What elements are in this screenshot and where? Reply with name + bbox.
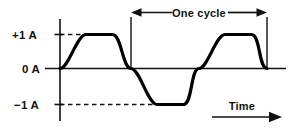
- label-zero: 0 A: [22, 63, 40, 75]
- label-negative-peak: −1 A: [14, 99, 39, 111]
- label-time: Time: [229, 100, 255, 112]
- label-positive-peak: +1 A: [12, 29, 37, 41]
- figure-background: [0, 0, 290, 132]
- sine-wave-diagram: +1 A 0 A −1 A One cycle Time: [0, 0, 290, 132]
- label-one-cycle: One cycle: [172, 7, 226, 19]
